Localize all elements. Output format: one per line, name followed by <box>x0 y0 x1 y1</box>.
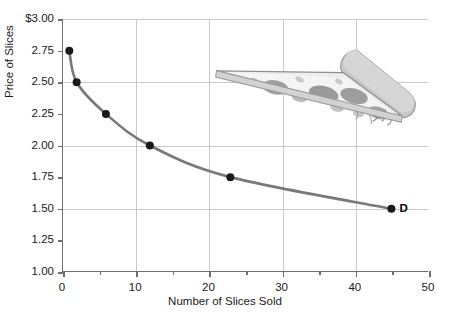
x-axis-tick-label: 0 <box>42 282 82 294</box>
x-axis-tick-label: 40 <box>335 282 375 294</box>
y-axis-tick-label: 2.75 <box>32 45 54 57</box>
x-axis-tick-label: 30 <box>262 282 302 294</box>
y-axis-tick-label: 2.50 <box>32 76 54 88</box>
pizza-slice-illustration <box>0 0 450 316</box>
y-axis-tick-label: 2.00 <box>32 140 54 152</box>
x-axis-tick-label: 20 <box>188 282 228 294</box>
y-axis-tick-label: 2.25 <box>32 108 54 120</box>
demand-curve-label: D <box>399 203 407 215</box>
demand-curve-chart: Price of Slices Number of Slices Sold <box>0 0 450 316</box>
y-axis-tick-label: $3.00 <box>25 13 54 25</box>
x-axis-tick-label: 10 <box>115 282 155 294</box>
y-axis-tick-label: 1.25 <box>32 234 54 246</box>
y-axis-tick-label: 1.75 <box>32 171 54 183</box>
y-axis-tick-label: 1.00 <box>32 266 54 278</box>
x-axis-tick-label: 50 <box>408 282 448 294</box>
y-axis-tick-label: 1.50 <box>32 203 54 215</box>
